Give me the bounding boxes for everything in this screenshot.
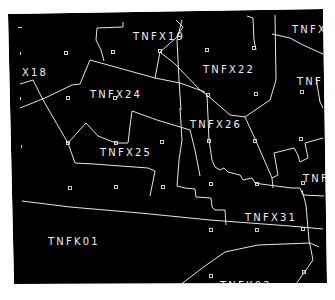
zone-label[interactable]: TNFX xyxy=(291,24,327,35)
zone-label[interactable]: TNF xyxy=(296,76,323,87)
zone-label[interactable]: TNFX26 xyxy=(189,119,242,130)
zone-label[interactable]: TNFX24 xyxy=(89,89,142,100)
zone-label[interactable]: TNFK01 xyxy=(47,236,100,247)
zone-label[interactable]: TNFX22 xyxy=(202,64,255,75)
zone-label[interactable]: TNFX25 xyxy=(99,147,152,158)
zone-label[interactable]: TNFX19 xyxy=(132,31,185,42)
map-canvas[interactable]: X18 TNFX19 TNFX TNFX22 TNFX24 TNF TNFX26… xyxy=(0,0,335,300)
zone-label[interactable]: TNF xyxy=(302,173,329,184)
zone-label[interactable]: TNFX31 xyxy=(244,212,297,223)
page-margin-bottom xyxy=(0,283,335,300)
zone-label[interactable]: X18 xyxy=(22,67,48,78)
